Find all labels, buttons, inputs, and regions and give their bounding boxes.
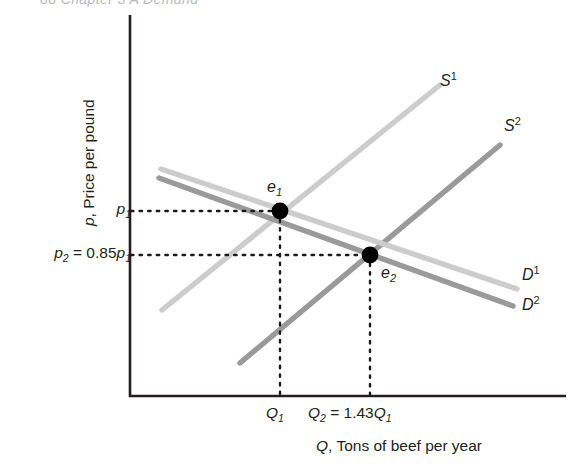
- supply-curve-s1: [162, 85, 440, 310]
- y-axis-title: p, Price per pound: [80, 6, 102, 226]
- p2-equals-coefficient: = 0.85: [69, 244, 117, 261]
- e2-variable: e: [381, 264, 390, 281]
- d2-superscript: 2: [534, 294, 540, 306]
- s1-superscript: 1: [451, 70, 457, 82]
- demand-curve-d2: [159, 178, 513, 306]
- equilibrium-point-e2: [362, 247, 379, 264]
- q2-tail-subscript: 1: [386, 412, 392, 424]
- y-tick-label-p2: p2 = 0.85p1: [54, 244, 131, 262]
- y-axis-title-text: , Price per pound: [80, 99, 97, 217]
- x-axis-title-text: , Tons of beef per year: [328, 437, 482, 454]
- d2-variable: D: [522, 296, 534, 313]
- curve-label-s1: S1: [440, 72, 457, 90]
- q2-variable: Q: [308, 404, 320, 421]
- curve-label-d2: D2: [522, 296, 540, 314]
- x-tick-label-q1: Q1: [266, 404, 284, 422]
- p1-subscript: 1: [125, 208, 131, 220]
- supply-demand-figure: 88 Chapter 3 A Demand p, Price per pound: [0, 0, 568, 467]
- s2-variable: S: [504, 117, 515, 134]
- e2-subscript: 2: [390, 272, 396, 284]
- q1-subscript: 1: [278, 412, 284, 424]
- equilibrium-label-e2: e2: [381, 264, 396, 282]
- p2-tail-subscript: 1: [125, 252, 131, 264]
- q2-subscript: 2: [320, 412, 326, 424]
- y-axis-title-variable: p: [80, 217, 97, 226]
- q2-equals-coefficient: = 1.43: [326, 404, 374, 421]
- e1-subscript: 1: [276, 186, 282, 198]
- s2-superscript: 2: [515, 115, 521, 127]
- e1-variable: e: [267, 178, 276, 195]
- p2-tail-variable: p: [117, 244, 126, 261]
- x-tick-label-q2: Q2 = 1.43Q1: [308, 404, 392, 422]
- axes: [129, 15, 566, 397]
- q1-variable: Q: [266, 404, 278, 421]
- p1-variable: p: [117, 200, 126, 217]
- x-axis-title-variable: Q: [316, 437, 328, 454]
- q2-tail-variable: Q: [374, 404, 386, 421]
- p2-variable: p: [54, 244, 63, 261]
- equilibrium-label-e1: e1: [267, 178, 282, 196]
- x-axis-title: Q, Tons of beef per year: [316, 437, 482, 455]
- y-tick-label-p1: p1: [117, 200, 131, 218]
- d1-superscript: 1: [534, 264, 540, 276]
- curve-label-s2: S2: [504, 117, 521, 135]
- s1-variable: S: [440, 72, 451, 89]
- equilibrium-point-e1: [272, 203, 289, 220]
- p2-subscript: 2: [63, 252, 69, 264]
- d1-variable: D: [522, 266, 534, 283]
- curve-label-d1: D1: [522, 266, 540, 284]
